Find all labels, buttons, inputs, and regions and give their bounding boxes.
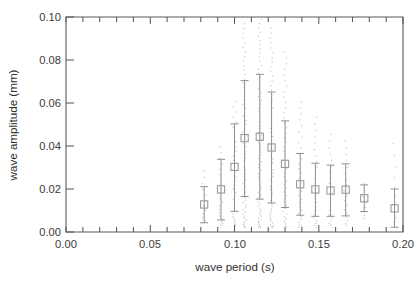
scatter-point [261,152,262,153]
scatter-point [222,201,223,202]
data-point-group [327,165,335,216]
scatter-point [298,131,299,132]
scatter-point [271,90,272,91]
scatter-point [258,222,259,223]
y-ticklabel-1: 0.02 [39,183,61,195]
scatter-point [270,189,271,190]
scatter-point [233,213,234,214]
scatter-point [283,191,284,192]
data-point-group [391,189,399,227]
scatter-point [272,162,273,163]
data-point-group [231,124,239,212]
scatter-point [244,223,245,224]
scatter-point [329,214,330,215]
scatter-point [243,143,244,144]
scatter-point [233,218,234,219]
scatter-point [363,218,364,219]
scatter-point [261,65,262,66]
scatter-point [299,224,300,225]
scatter-point [270,42,271,43]
scatter-point [259,57,260,58]
scatter-point [301,216,302,217]
scatter-point [272,205,273,206]
scatter-point [244,78,245,79]
scatter-point [346,225,347,226]
scatter-point [270,71,271,72]
x-ticklabel-3: 0.15 [308,238,330,250]
scatter-point [242,214,243,215]
scatter-point [286,195,287,196]
data-point-group [241,81,249,197]
scatter-point [394,177,395,178]
scatter-point [270,219,271,220]
scatter-point [246,205,247,206]
scatter-point [258,178,259,179]
scatter-point [236,146,237,147]
scatter-point [245,211,246,212]
scatter-point [219,197,220,198]
scatter-point [286,226,287,227]
scatter-point [246,135,247,136]
scatter-point [245,51,246,52]
scatter-point [301,225,302,226]
scatter-point [314,143,315,144]
scatter-point [258,220,259,221]
scatter-point [347,195,348,196]
x-ticklabel-0: 0.00 [55,238,77,250]
scatter-point [203,170,204,171]
scatter-point [285,224,286,225]
scatter-point [329,223,330,224]
scatter-point [316,223,317,224]
scatter-point [258,88,259,89]
scatter-point [301,125,302,126]
scatter-point [233,106,234,107]
scatter-point [298,178,299,179]
scatter-point [283,117,284,118]
scatter-point [260,194,261,195]
scatter-point [258,217,259,218]
scatter-point [301,113,302,114]
scatter-point [222,218,223,219]
scatter-point [284,69,285,70]
scatter-point [202,183,203,184]
scatter-point [298,142,299,143]
scatter-point [261,216,262,217]
scatter-point [258,197,259,198]
scatter-point [283,151,284,152]
scatter-point [235,222,236,223]
data-point-group [342,164,350,216]
scatter-point [272,159,273,160]
scatter-point [259,61,260,62]
scatter-point [271,28,272,29]
scatter-point [258,142,259,143]
scatter-point [284,176,285,177]
x-ticklabel-1: 0.05 [139,238,161,250]
scatter-point [244,28,245,29]
scatter-point [301,158,302,159]
scatter-point [286,188,287,189]
scatter-point [259,23,260,24]
scatter-point [260,32,261,33]
scatter-point [260,227,261,228]
y-ticklabel-0: 0.00 [39,226,61,238]
scatter-point [271,210,272,211]
scatter-point [270,179,271,180]
scatter-point [331,134,332,135]
scatter-point [286,180,287,181]
scatter-point [243,218,244,219]
scatter-point [363,183,364,184]
scatter-point [316,220,317,221]
scatter-point [244,197,245,198]
scatter-point [270,224,271,225]
scatter-point [270,85,271,86]
scatter-point [222,163,223,164]
x-ticklabel-4: 0.20 [392,238,414,250]
scatter-point [301,101,302,102]
scatter-point [315,130,316,131]
scatter-point [331,160,332,161]
scatter-point [314,149,315,150]
scatter-point [284,221,285,222]
scatter-point [298,213,299,214]
scatter-point [364,215,365,216]
scatter-point [329,183,330,184]
